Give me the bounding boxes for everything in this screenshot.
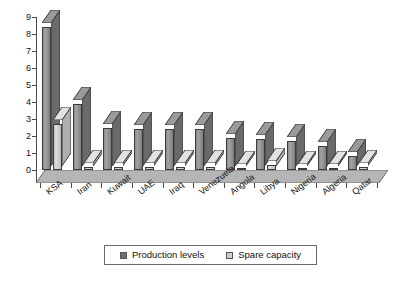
bar-top — [103, 110, 121, 128]
bar-group — [195, 17, 226, 170]
x-axis-tickmark — [163, 183, 164, 188]
legend-label-spare: Spare capacity — [238, 250, 301, 260]
x-axis-tickmark — [71, 183, 72, 188]
bar-face — [73, 104, 82, 170]
bar-group — [165, 17, 196, 170]
bar-production — [348, 156, 357, 170]
x-axis-tickmark — [40, 183, 41, 188]
legend-label-production: Production levels — [132, 250, 204, 260]
bar-face — [134, 129, 143, 170]
bar-top — [226, 120, 244, 138]
x-axis-tickmark — [346, 183, 347, 188]
bar-group — [287, 17, 318, 170]
bar-top — [318, 128, 336, 146]
bars-layer — [36, 17, 388, 183]
bar-top — [73, 86, 91, 104]
bar-production — [318, 146, 327, 170]
x-axis-tickmark — [254, 183, 255, 188]
x-axis-tickmark — [193, 183, 194, 188]
bar-face — [103, 128, 112, 171]
bar-production — [287, 141, 296, 170]
x-axis-tickmark — [316, 183, 317, 188]
bar-face — [165, 129, 174, 170]
bar-top — [114, 149, 132, 167]
bar-face — [287, 141, 296, 170]
bar-production — [73, 104, 82, 170]
bar-group — [348, 17, 379, 170]
bar-top — [329, 150, 347, 168]
bar-top — [42, 9, 60, 27]
bar-group — [134, 17, 165, 170]
bar-face — [195, 129, 204, 170]
bar-production — [42, 27, 51, 170]
bar-top — [298, 150, 316, 168]
bar-group — [318, 17, 349, 170]
bar-top — [53, 106, 71, 124]
bar-top — [176, 149, 194, 167]
bar-top — [84, 149, 102, 167]
bar-group — [42, 17, 73, 170]
bar-production — [256, 139, 265, 170]
bar-group — [256, 17, 287, 170]
bar-top — [206, 149, 224, 167]
x-axis-labels: KSAIranKuwaitUAEIraqVenezuelaAngolaLibya… — [36, 189, 396, 235]
bar-group — [226, 17, 257, 170]
bar-group — [73, 17, 104, 170]
bar-face — [318, 146, 327, 170]
bar-spare — [53, 124, 62, 170]
plot-area: 0123456789 — [36, 17, 388, 183]
x-axis-tickmark — [224, 183, 225, 188]
bar-group — [103, 17, 134, 170]
x-axis-tickmark — [285, 183, 286, 188]
bar-top — [165, 111, 183, 129]
x-axis-tickmark — [101, 183, 102, 188]
bar-production — [195, 129, 204, 170]
legend-item-production: Production levels — [120, 250, 204, 260]
bar-face — [256, 139, 265, 170]
chart-legend: Production levels Spare capacity — [104, 245, 317, 265]
bar-top — [145, 149, 163, 167]
legend-item-spare: Spare capacity — [226, 250, 301, 260]
bar-production — [103, 128, 112, 171]
bar-top — [134, 111, 152, 129]
legend-swatch-spare-icon — [226, 252, 233, 259]
bar-top — [287, 123, 305, 141]
bar-face — [42, 27, 51, 170]
bar-production — [165, 129, 174, 170]
bar-top — [237, 150, 255, 168]
bar-top — [267, 147, 285, 165]
bar-chart: 0123456789 KSAIranKuwaitUAEIraqVenezuela… — [0, 0, 411, 281]
bar-face — [348, 156, 357, 170]
bar-production — [134, 129, 143, 170]
bar-top — [195, 111, 213, 129]
bar-face — [53, 124, 62, 170]
bar-top — [359, 149, 377, 167]
x-axis-tickmark — [377, 183, 378, 188]
bar-top — [256, 121, 274, 139]
x-axis-tickmark — [132, 183, 133, 188]
legend-swatch-production-icon — [120, 252, 127, 259]
